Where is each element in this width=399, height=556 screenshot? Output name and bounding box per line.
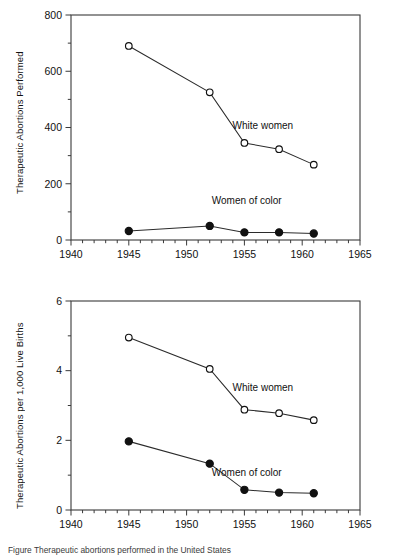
series-annotation-label: White women [233,120,294,131]
x-axis-tick-label: 1950 [175,248,199,260]
x-axis-tick-label: 1960 [291,248,315,260]
y-axis-tick-label: 200 [44,178,62,190]
y-axis-tick-label: 0 [56,234,62,246]
y-axis-tick-label: 600 [44,65,62,77]
y-axis-tick-label: 2 [56,434,62,446]
y-axis-tick-label: 4 [56,364,62,376]
x-axis-tick-label: 1940 [59,518,83,530]
x-axis-tick-label: 1945 [117,518,141,530]
series-line [129,338,314,421]
y-axis-tick-label: 6 [56,295,62,307]
data-point-open [126,334,133,341]
data-point-open [241,406,248,413]
chart-abortions-per-1000: Therapeutic Abortions per 1,000 Live Bir… [0,278,399,540]
data-point-filled [125,438,132,445]
plot-frame [71,301,360,510]
series-annotation-label: White women [233,382,294,393]
y-axis-tick-label: 800 [44,9,62,21]
data-point-filled [241,486,248,493]
x-axis-tick-label: 1955 [233,248,257,260]
data-point-open [206,366,213,373]
data-point-filled [275,229,282,236]
data-point-open [276,410,283,417]
data-point-filled [241,229,248,236]
plot-area-bottom: 1940194519501955196019650246White womenW… [0,278,399,540]
series-line [129,46,314,165]
x-axis-tick-label: 1965 [348,518,372,530]
data-point-filled [206,222,213,229]
data-point-filled [125,227,132,234]
figure-two-line-charts: Therapeutic Abortions Performed 19401945… [0,0,399,556]
data-point-open [276,146,283,153]
x-axis-tick-label: 1960 [291,518,315,530]
plot-frame [71,15,360,240]
data-point-open [241,140,248,147]
x-axis-tick-label: 1965 [348,248,372,260]
x-axis-tick-label: 1955 [233,518,257,530]
x-axis-tick-label: 1940 [59,248,83,260]
figure-caption: Figure Therapeutic abortions performed i… [8,545,398,556]
data-point-open [206,89,213,96]
series-line [129,226,314,234]
plot-area-top: 1940194519501955196019650200400600800Whi… [0,0,399,278]
data-point-open [310,161,317,168]
data-point-filled [275,489,282,496]
data-point-open [126,43,133,50]
data-point-filled [310,490,317,497]
data-point-filled [310,230,317,237]
data-point-open [310,417,317,424]
y-axis-tick-label: 400 [44,121,62,133]
x-axis-tick-label: 1945 [117,248,141,260]
series-annotation-label: Women of color [212,467,283,478]
series-annotation-label: Women of color [212,195,283,206]
chart-abortions-performed: Therapeutic Abortions Performed 19401945… [0,0,399,278]
y-axis-tick-label: 0 [56,504,62,516]
x-axis-tick-label: 1950 [175,518,199,530]
